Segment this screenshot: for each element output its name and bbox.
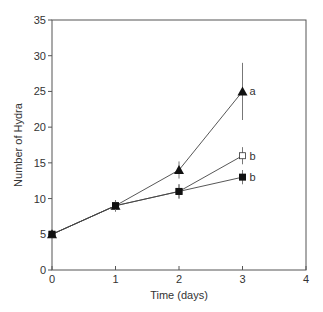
y-tick-label: 20 — [34, 121, 46, 133]
series-filled-square: b — [49, 170, 256, 238]
series-line — [52, 156, 243, 235]
series-line — [52, 91, 243, 234]
y-tick-label: 0 — [40, 264, 46, 276]
y-tick-label: 30 — [34, 50, 46, 62]
y-tick-label: 10 — [34, 193, 46, 205]
x-axis-label: Time (days) — [150, 289, 208, 301]
chart: 0123405101520253035 abb Time (days) Numb… — [0, 0, 323, 312]
significance-label: b — [250, 150, 256, 162]
data-point-filled-square — [239, 174, 246, 181]
plot-frame — [52, 20, 306, 270]
x-tick-label: 3 — [239, 273, 245, 285]
series-group: abb — [47, 63, 257, 238]
series-line — [52, 177, 243, 234]
significance-label: a — [250, 85, 257, 97]
data-point-filled-square — [176, 188, 183, 195]
y-tick-label: 25 — [34, 85, 46, 97]
data-point-triangle — [238, 86, 248, 95]
y-axis-label: Number of Hydra — [12, 102, 24, 187]
data-point-open-square — [240, 153, 246, 159]
x-tick-label: 2 — [176, 273, 182, 285]
axes: 0123405101520253035 — [34, 14, 309, 285]
data-point-filled-square — [112, 202, 119, 209]
x-tick-label: 4 — [303, 273, 309, 285]
significance-label: b — [250, 171, 256, 183]
series-triangle: a — [47, 63, 257, 238]
data-point-filled-square — [49, 231, 56, 238]
y-tick-label: 15 — [34, 157, 46, 169]
y-tick-label: 5 — [40, 228, 46, 240]
y-tick-label: 35 — [34, 14, 46, 26]
series-open-square: b — [49, 147, 256, 237]
x-tick-label: 0 — [49, 273, 55, 285]
x-tick-label: 1 — [112, 273, 118, 285]
